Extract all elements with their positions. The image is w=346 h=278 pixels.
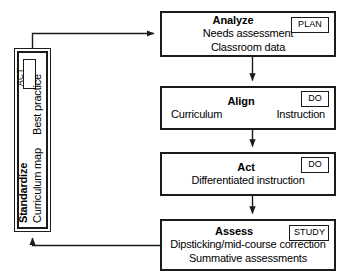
align-title: Align	[228, 95, 255, 108]
stage-box-standardize[interactable]: ACT Standardize Best practice Curriculum…	[14, 48, 51, 232]
stage-box-align[interactable]: Align Curriculum Instruction DO	[160, 86, 336, 130]
analyze-title: Analyze	[213, 14, 254, 27]
badge-do-align: DO	[301, 91, 329, 107]
act-line-1: Differentiated instruction	[191, 174, 304, 188]
stage-box-act[interactable]: Act Differentiated instruction DO	[160, 152, 336, 196]
analyze-line-1: Needs assessment	[203, 27, 293, 41]
connector-standardize-to-analyze	[33, 34, 155, 49]
connector-assess-to-standardize	[33, 238, 161, 246]
badge-plan: PLAN	[291, 17, 329, 33]
assess-title: Assess	[215, 225, 253, 238]
badge-act-label: ACT	[16, 68, 25, 86]
standardize-line-curriculum-map: Curriculum map	[31, 148, 43, 223]
assess-line-2: Summative assessments	[189, 252, 307, 266]
standardize-line-best-practice: Best practice	[31, 74, 43, 135]
standardize-inner-frame: ACT Standardize Best practice Curriculum…	[17, 51, 48, 229]
badge-study: STUDY	[289, 225, 329, 241]
stage-box-assess[interactable]: Assess Dipsticking/mid-course correction…	[160, 219, 336, 271]
align-line-instruction: Instruction	[276, 108, 325, 122]
standardize-title: Standardize	[17, 163, 29, 223]
analyze-line-2: Classroom data	[211, 41, 285, 55]
align-line-curriculum: Curriculum	[171, 108, 222, 122]
align-columns: Curriculum Instruction	[162, 108, 334, 122]
stage-box-analyze[interactable]: Analyze Needs assessment Classroom data …	[160, 11, 336, 57]
badge-do-act: DO	[301, 157, 329, 173]
act-title: Act	[237, 161, 254, 174]
diagram-canvas: ACT Standardize Best practice Curriculum…	[0, 0, 346, 278]
